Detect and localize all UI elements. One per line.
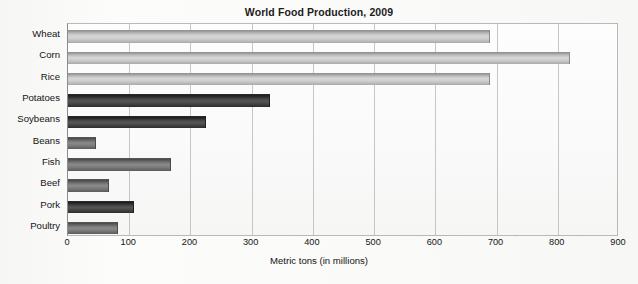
bar-row bbox=[68, 194, 619, 215]
bar-row bbox=[68, 131, 619, 152]
x-tick-300: 300 bbox=[231, 237, 271, 247]
y-axis-label-beans: Beans bbox=[0, 135, 60, 146]
x-tick-600: 600 bbox=[414, 237, 454, 247]
y-axis-label-soybeans: Soybeans bbox=[0, 113, 60, 124]
y-axis-label-corn: Corn bbox=[0, 49, 60, 60]
x-tick-400: 400 bbox=[292, 237, 332, 247]
bar-beef bbox=[68, 179, 109, 191]
x-tick-100: 100 bbox=[108, 237, 148, 247]
bar-row bbox=[68, 109, 619, 130]
bar-fish bbox=[68, 158, 171, 170]
bar-poultry bbox=[68, 222, 118, 234]
y-axis-label-fish: Fish bbox=[0, 156, 60, 167]
x-axis-title: Metric tons (in millions) bbox=[0, 255, 638, 266]
x-tick-700: 700 bbox=[476, 237, 516, 247]
y-axis-label-rice: Rice bbox=[0, 71, 60, 82]
bar-row bbox=[68, 45, 619, 66]
bar-row bbox=[68, 88, 619, 109]
y-axis-category-labels: WheatCornRicePotatoesSoybeansBeansFishBe… bbox=[0, 23, 63, 236]
bar-pork bbox=[68, 201, 134, 213]
bar-wheat bbox=[68, 30, 490, 42]
y-axis-label-beef: Beef bbox=[0, 177, 60, 188]
plot-area bbox=[67, 23, 618, 236]
bar-row bbox=[68, 173, 619, 194]
y-axis-label-poultry: Poultry bbox=[0, 220, 60, 231]
bar-potatoes bbox=[68, 94, 270, 106]
x-tick-0: 0 bbox=[47, 237, 87, 247]
bar-row bbox=[68, 152, 619, 173]
x-axis-tick-labels: 0100200300400500600700800900 bbox=[0, 237, 638, 253]
bar-chart: World Food Production, 2009 WheatCornRic… bbox=[0, 0, 638, 284]
x-tick-900: 900 bbox=[598, 237, 638, 247]
bar-row bbox=[68, 67, 619, 88]
chart-title: World Food Production, 2009 bbox=[0, 6, 638, 18]
bar-beans bbox=[68, 137, 96, 149]
bar-row bbox=[68, 216, 619, 237]
bar-soybeans bbox=[68, 116, 206, 128]
bar-row bbox=[68, 24, 619, 45]
y-axis-label-potatoes: Potatoes bbox=[0, 92, 60, 103]
bar-corn bbox=[68, 52, 570, 64]
y-axis-label-wheat: Wheat bbox=[0, 28, 60, 39]
bar-rice bbox=[68, 73, 490, 85]
x-tick-800: 800 bbox=[537, 237, 577, 247]
y-axis-label-pork: Pork bbox=[0, 199, 60, 210]
x-tick-200: 200 bbox=[169, 237, 209, 247]
x-tick-500: 500 bbox=[353, 237, 393, 247]
